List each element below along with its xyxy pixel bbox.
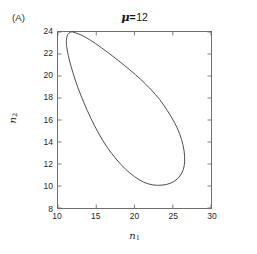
y-tick-labels: 24222018161412108 (29, 31, 53, 209)
y-tick-label: 14 (44, 138, 53, 147)
tick-marks (58, 32, 211, 208)
title-value: 12 (136, 11, 148, 23)
panel-label: (A) (12, 12, 25, 23)
y-tick-label: 22 (44, 49, 53, 58)
figure-panel: (A) μ=12 24222018161412108 1015202530 n1… (0, 0, 257, 254)
x-tick-label: 30 (201, 212, 223, 221)
y-tick-label: 20 (44, 71, 53, 80)
y-tick-label: 24 (44, 27, 53, 36)
mu-symbol: μ (121, 10, 129, 24)
plot-axes-box (57, 31, 212, 209)
x-axis-label: n1 (57, 230, 212, 242)
x-tick-labels: 1015202530 (57, 212, 212, 226)
y-tick-label: 12 (44, 160, 53, 169)
plot-title: μ=12 (57, 10, 212, 24)
y-tick-label: 18 (44, 93, 53, 102)
y-axis-label-sub: 2 (11, 113, 19, 117)
curve-svg (58, 32, 211, 208)
y-tick-label: 16 (44, 116, 53, 125)
x-tick-label: 20 (124, 212, 146, 221)
x-tick-label: 15 (85, 212, 107, 221)
x-tick-label: 10 (46, 212, 68, 221)
y-axis-label-base: n (7, 117, 18, 123)
y-tick-label: 10 (44, 182, 53, 191)
y-axis-label: n2 (7, 98, 19, 138)
x-tick-label: 25 (162, 212, 184, 221)
limit-cycle-curve (66, 32, 184, 186)
x-axis-label-sub: 1 (136, 234, 140, 242)
